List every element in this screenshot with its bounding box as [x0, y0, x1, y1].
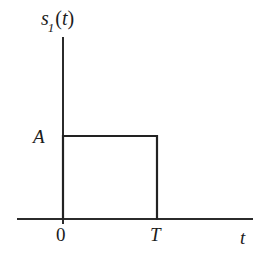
origin-tick-label: 0 [56, 225, 66, 244]
y-axis-label-paren-close: ) [68, 7, 75, 29]
pulse-end-tick-label: T [150, 225, 161, 244]
signal-plot-figure: s1(t) A 0 T t [0, 0, 272, 265]
x-axis-label: t [240, 228, 245, 247]
pulse-waveform [63, 136, 157, 219]
y-axis-label-paren-open: ( [55, 7, 62, 29]
y-axis-label-subscript: 1 [48, 20, 55, 35]
y-axis-label: s1(t) [41, 8, 74, 32]
amplitude-label: A [33, 127, 45, 146]
